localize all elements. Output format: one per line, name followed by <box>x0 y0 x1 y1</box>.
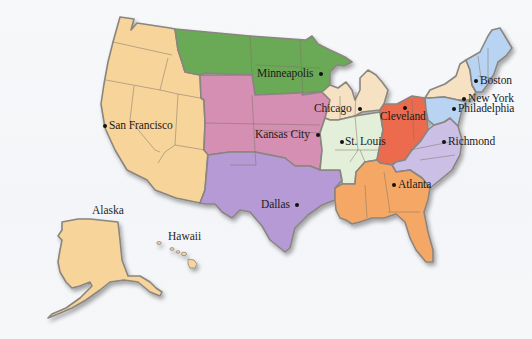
label-san-francisco: San Francisco <box>109 120 173 132</box>
map-canvas <box>0 0 532 339</box>
city-marker-atlanta[interactable] <box>392 183 396 187</box>
city-marker-boston[interactable] <box>474 79 478 83</box>
label-atlanta: Atlanta <box>398 179 431 191</box>
label-st-louis: St. Louis <box>345 136 386 148</box>
federal-reserve-district-map: Minneapolis San Francisco Kansas City Ch… <box>0 0 532 339</box>
region-alaska <box>48 219 162 318</box>
label-cleveland: Cleveland <box>380 111 426 123</box>
city-marker-minneapolis[interactable] <box>319 72 323 76</box>
city-marker-new-york[interactable] <box>462 97 466 101</box>
city-marker-san-francisco[interactable] <box>103 124 107 128</box>
label-hawaii: Hawaii <box>168 231 201 243</box>
city-marker-st-louis[interactable] <box>340 140 344 144</box>
label-kansas-city: Kansas City <box>255 129 310 141</box>
label-alaska: Alaska <box>92 205 124 217</box>
label-philadelphia: Philadelphia <box>458 103 514 115</box>
label-chicago: Chicago <box>314 103 352 115</box>
city-marker-richmond[interactable] <box>442 140 446 144</box>
region-hawaii <box>157 242 197 269</box>
label-minneapolis: Minneapolis <box>257 68 313 80</box>
label-dallas: Dallas <box>261 199 290 211</box>
city-marker-philadelphia[interactable] <box>452 107 456 111</box>
label-boston: Boston <box>480 75 512 87</box>
label-richmond: Richmond <box>448 136 495 148</box>
city-marker-chicago[interactable] <box>358 107 362 111</box>
city-marker-dallas[interactable] <box>295 203 299 207</box>
city-marker-kansas-city[interactable] <box>316 133 320 137</box>
